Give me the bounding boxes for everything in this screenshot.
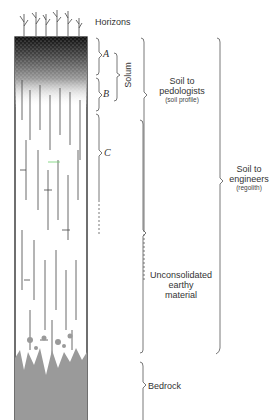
bedrock-brace bbox=[140, 362, 146, 420]
horizon-a-label: A bbox=[103, 49, 109, 59]
horizon-c-label: C bbox=[104, 148, 111, 158]
engineers-label: Soil to engineers (regolith) bbox=[222, 164, 276, 192]
horizon-b-label: B bbox=[103, 89, 109, 99]
horizon-c-brace bbox=[96, 114, 102, 200]
unconsolidated-brace bbox=[140, 120, 146, 353]
solum-label: Solum bbox=[123, 60, 133, 90]
horizons-header: Horizons bbox=[95, 17, 131, 27]
bedrock-label: Bedrock bbox=[148, 381, 181, 391]
unconsolidated-label: Unconsolidated earthy material bbox=[146, 270, 216, 300]
solum-brace bbox=[114, 53, 120, 101]
horizon-a-brace bbox=[96, 38, 102, 75]
horizon-b-brace bbox=[96, 78, 102, 111]
plants-icon bbox=[20, 10, 82, 36]
pedologists-brace bbox=[141, 38, 147, 230]
soil-profile-diagram bbox=[0, 0, 276, 420]
pedologists-label: Soil to pedologists (soil profile) bbox=[150, 76, 214, 104]
engineers-brace bbox=[216, 38, 223, 354]
